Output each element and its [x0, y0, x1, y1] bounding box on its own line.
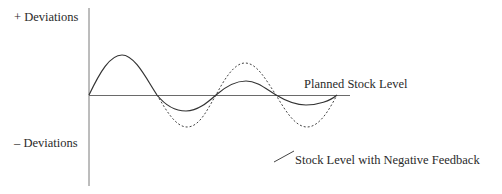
negative-deviations-label: – Deviations: [14, 136, 78, 151]
legend-solid-line-icon: [274, 151, 294, 162]
positive-deviations-label: + Deviations: [14, 10, 78, 25]
planned-stock-level-label: Planned Stock Level: [304, 77, 407, 92]
solid-curve: [89, 55, 337, 111]
legend-label: Stock Level with Negative Feedback: [295, 153, 480, 168]
